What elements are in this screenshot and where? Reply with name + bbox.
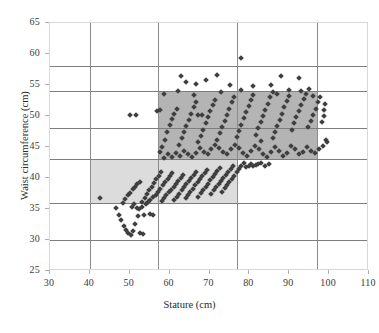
- data-point: [268, 82, 274, 88]
- scatter-chart: 30405060708090100110253035404550556065 S…: [0, 0, 379, 333]
- data-point: [278, 73, 284, 79]
- data-point: [251, 83, 257, 89]
- data-point: [118, 217, 124, 223]
- x-axis-tick-label: 110: [348, 277, 379, 288]
- x-axis-tick: [209, 270, 210, 274]
- y-axis-tick: [45, 177, 49, 178]
- data-point: [141, 212, 147, 218]
- horizontal-gridline: [50, 91, 367, 92]
- data-point: [214, 72, 220, 78]
- x-axis-tick-label: 30: [29, 277, 69, 288]
- x-axis-tick: [89, 270, 90, 274]
- data-point: [203, 77, 209, 83]
- data-point: [133, 112, 139, 118]
- x-axis-tick-label: 70: [189, 277, 229, 288]
- y-axis-tick-label: 65: [6, 16, 40, 28]
- horizontal-gridline: [50, 128, 367, 129]
- vertical-gridline: [90, 23, 91, 269]
- horizontal-gridline: [50, 159, 367, 160]
- data-point: [127, 112, 133, 118]
- plot-inner: [50, 23, 367, 269]
- data-point: [227, 82, 233, 88]
- x-axis-tick: [368, 270, 369, 274]
- y-axis-tick: [45, 84, 49, 85]
- x-axis-tick-label: 60: [149, 277, 189, 288]
- y-axis-tick: [45, 239, 49, 240]
- data-point: [324, 139, 330, 145]
- data-point: [238, 55, 244, 61]
- data-point: [178, 73, 184, 79]
- data-point: [296, 75, 302, 81]
- data-point: [321, 107, 327, 113]
- y-axis-tick: [45, 270, 49, 271]
- x-axis-tick: [169, 270, 170, 274]
- x-axis-tick-label: 100: [308, 277, 348, 288]
- x-axis-tick: [248, 270, 249, 274]
- x-axis-tick-label: 90: [268, 277, 308, 288]
- data-point: [183, 79, 189, 85]
- x-axis-tick-label: 40: [69, 277, 109, 288]
- x-axis-tick-label: 50: [109, 277, 149, 288]
- y-axis-tick: [45, 208, 49, 209]
- y-axis-tick: [45, 115, 49, 116]
- x-axis-title: Stature (cm): [0, 299, 379, 310]
- x-axis-tick: [129, 270, 130, 274]
- x-axis-tick: [288, 270, 289, 274]
- data-point: [132, 221, 138, 227]
- x-axis-tick: [328, 270, 329, 274]
- data-point: [150, 212, 156, 218]
- data-point: [113, 205, 119, 211]
- y-axis-tick: [45, 146, 49, 147]
- data-point: [135, 214, 141, 220]
- y-axis-tick: [45, 53, 49, 54]
- data-point: [140, 232, 146, 238]
- data-point: [193, 81, 199, 87]
- horizontal-gridline: [50, 203, 367, 204]
- y-axis-title: Waist circumference (cm): [19, 46, 30, 246]
- data-point: [322, 101, 328, 107]
- x-axis-tick-label: 80: [228, 277, 268, 288]
- data-point: [319, 119, 325, 125]
- horizontal-gridline: [50, 240, 367, 241]
- y-axis-tick: [45, 22, 49, 23]
- y-axis-tick-label: 25: [6, 264, 40, 276]
- x-axis-tick: [49, 270, 50, 274]
- plot-area: [49, 22, 368, 270]
- horizontal-gridline: [50, 66, 367, 67]
